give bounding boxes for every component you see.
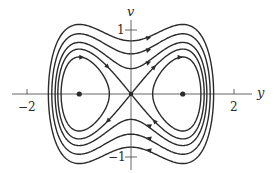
- axes: −2 2 1 −1 v y: [12, 4, 265, 170]
- center-point: [180, 91, 185, 96]
- tick-label-y-neg2: −2: [18, 100, 36, 114]
- phase-portrait: −2 2 1 −1 v y: [0, 0, 279, 173]
- flow-arrow-icon: [145, 61, 151, 65]
- center-point: [77, 91, 82, 96]
- tick-label-v-pos1: 1: [117, 23, 125, 37]
- axis-label-v: v: [127, 4, 135, 19]
- tick-label-y-pos2: 2: [230, 100, 238, 114]
- flow-arrow-icon: [79, 55, 84, 60]
- saddle-point: [129, 92, 133, 96]
- axis-label-y: y: [256, 85, 265, 100]
- flow-arrow-icon: [146, 48, 152, 53]
- flow-arrow-icon: [178, 55, 183, 60]
